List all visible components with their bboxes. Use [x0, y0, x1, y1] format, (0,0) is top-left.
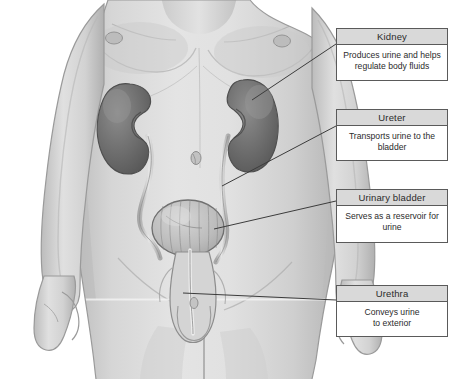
- callout-kidney-description: Produces urine and helps regulate body f…: [337, 45, 447, 76]
- urethral-meatus: [190, 298, 198, 309]
- callout-urinary-bladder[interactable]: Urinary bladder Serves as a reservoir fo…: [336, 189, 448, 243]
- bladder-highlight: [161, 206, 191, 226]
- nipple-right: [274, 35, 291, 47]
- pectoral-shade-left: [92, 22, 188, 74]
- callout-ureter-description: Transports urine to the bladder: [337, 126, 447, 157]
- callout-kidney[interactable]: Kidney Produces urine and helps regulate…: [336, 28, 448, 81]
- navel: [191, 152, 201, 165]
- nipple-left: [106, 32, 123, 44]
- callout-urethra-title: Urethra: [337, 286, 447, 302]
- callout-kidney-title: Kidney: [337, 29, 447, 45]
- callout-ureter[interactable]: Ureter Transports urine to the bladder: [336, 109, 448, 161]
- callout-urethra-description: Conveys urine to exterior: [337, 302, 447, 333]
- diagram-canvas: Kidney Produces urine and helps regulate…: [0, 0, 457, 379]
- callout-urethra[interactable]: Urethra Conveys urine to exterior: [336, 285, 448, 337]
- left-kidney-highlight: [245, 85, 273, 119]
- callout-urinary-bladder-title: Urinary bladder: [337, 190, 447, 206]
- left-hand: [34, 276, 76, 350]
- callout-ureter-title: Ureter: [337, 110, 447, 126]
- pectoral-shade-right: [214, 26, 310, 78]
- right-kidney-highlight: [103, 89, 131, 123]
- callout-urinary-bladder-description: Serves as a reservoir for urine: [337, 206, 447, 237]
